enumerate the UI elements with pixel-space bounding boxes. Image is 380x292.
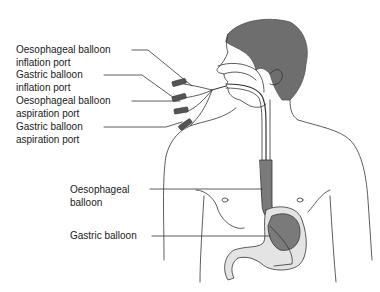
tube-to-ports <box>212 86 226 90</box>
nipple-right <box>297 198 303 202</box>
label-line: inflation port <box>16 57 111 70</box>
shoulder-left <box>164 108 237 260</box>
label-line: Oesophageal balloon <box>16 44 111 57</box>
port-line-1 <box>184 84 212 90</box>
label-oesophageal-balloon: Oesophageal balloon <box>70 184 130 209</box>
palate <box>224 72 256 80</box>
label-oesophageal-balloon-aspiration-port: Oesophageal balloon aspiration port <box>16 95 111 120</box>
label-gastric-balloon-inflation-port: Gastric balloon inflation port <box>16 69 83 94</box>
port-connectors <box>172 78 193 130</box>
torso-right <box>330 196 336 282</box>
label-gastric-balloon-aspiration-port: Gastric balloon aspiration port <box>16 121 83 146</box>
label-oesophageal-balloon-inflation-port: Oesophageal balloon inflation port <box>16 44 111 69</box>
port-line-3 <box>186 90 212 112</box>
hair-shape <box>226 19 307 100</box>
nipple-left <box>222 198 228 202</box>
label-line: Oesophageal <box>70 184 130 197</box>
diagram-canvas: Oesophageal balloon inflation port Gastr… <box>0 0 380 292</box>
chest-right <box>308 190 330 212</box>
label-gastric-balloon: Gastric balloon <box>70 230 137 243</box>
label-line: balloon <box>70 197 130 210</box>
label-line: Gastric balloon <box>16 121 83 134</box>
port-line-2 <box>184 90 212 98</box>
leader-gas-aspiration <box>104 122 182 127</box>
label-line: Gastric balloon <box>16 69 83 82</box>
torso-left <box>200 196 204 282</box>
label-line: Oesophageal balloon <box>16 95 111 108</box>
label-line: inflation port <box>16 82 83 95</box>
label-line: Gastric balloon <box>70 230 137 243</box>
tube-inner <box>226 88 262 196</box>
label-line: aspiration port <box>16 108 111 121</box>
label-line: aspiration port <box>16 134 83 147</box>
leader-gas-inflation <box>104 75 174 98</box>
